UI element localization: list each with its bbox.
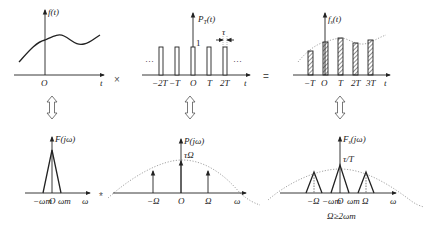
xlabel-omega: ω: [390, 196, 396, 206]
sampling-diagram: f(t) O t × ··· ··· PT(t) 1 τ −2T −T O T …: [0, 0, 426, 233]
xlabel-omega: ω: [234, 196, 240, 206]
pulse: [191, 47, 195, 75]
nyquist-condition: Ω≥2ωm: [327, 211, 356, 221]
fourier-pair-arrow-2: [185, 96, 195, 119]
panel-spectrum-p: P(jω) τΩ −Ω O Ω ω: [108, 136, 260, 206]
xlabel-t: t: [384, 78, 387, 88]
ylabel-f-t: f(t): [48, 7, 59, 17]
tick: Ω: [205, 196, 212, 206]
ylabel-fs: fs(t): [328, 14, 341, 25]
tick: 2T: [351, 78, 362, 88]
tick: −Ω: [307, 196, 320, 206]
signal-curve: [19, 35, 100, 62]
tick: 3T: [365, 78, 377, 88]
panel-pulse-train: ··· ··· PT(t) 1 τ −2T −T O T 2T t: [142, 13, 250, 88]
tick: −T: [304, 78, 316, 88]
tick: O: [190, 78, 197, 88]
pulse: [175, 47, 179, 75]
sample-bar: [368, 40, 373, 75]
pulse: [159, 47, 163, 75]
tick: 2T: [220, 78, 231, 88]
ylabel-pt: PT(t): [197, 14, 215, 25]
ellipsis-left: ···: [145, 56, 154, 66]
multiply-operator: ×: [114, 74, 120, 85]
pulse: [223, 47, 227, 75]
convolve-operator: *: [99, 191, 103, 202]
height-label: 1: [196, 38, 201, 48]
tick: T: [207, 78, 213, 88]
tau-label: τ: [222, 27, 226, 37]
equals-operator: =: [263, 71, 269, 82]
tick: O: [49, 196, 56, 206]
xlabel-t: t: [244, 78, 247, 88]
panel-spectrum-fs: Fs(jω) τ/T −Ω −ωm O ωm Ω ω Ω≥2ωm: [268, 134, 424, 221]
tick: −T: [169, 78, 181, 88]
tick: O: [321, 78, 328, 88]
tick: O: [337, 196, 344, 206]
xlabel-omega: ω: [82, 196, 88, 206]
origin-label: O: [41, 78, 48, 88]
tick: Ω: [362, 196, 369, 206]
panel-sampled-signal: fs(t) −T O T 2T 3T t: [293, 13, 390, 88]
tick: O: [178, 196, 185, 206]
ylabel-P: P(jω): [183, 136, 204, 146]
ellipsis-right: ···: [233, 56, 242, 66]
ylabel-Fs: Fs(jω): [342, 134, 366, 145]
panel-f-t: f(t) O t: [14, 7, 104, 88]
tick: −2T: [152, 78, 169, 88]
xlabel-t: t: [100, 78, 103, 88]
sample-bar: [338, 38, 343, 75]
sample-bar: [323, 42, 328, 75]
sample-bar: [353, 43, 358, 75]
tick: ωm: [58, 196, 71, 206]
tick: ωm: [347, 196, 360, 206]
pulse: [207, 47, 211, 75]
tick: −Ω: [147, 196, 160, 206]
sinc-envelope: [268, 169, 424, 207]
ylabel-F: F(jω): [54, 134, 75, 144]
peak-label: τΩ: [184, 150, 194, 160]
fourier-pair-arrow-3: [335, 96, 345, 119]
tick: T: [338, 78, 344, 88]
sample-bar: [308, 51, 313, 75]
fourier-pair-arrow-1: [47, 96, 57, 119]
peak-label: τ/T: [343, 154, 355, 164]
panel-spectrum-f: F(jω) −ωm O ωm ω: [25, 134, 90, 206]
